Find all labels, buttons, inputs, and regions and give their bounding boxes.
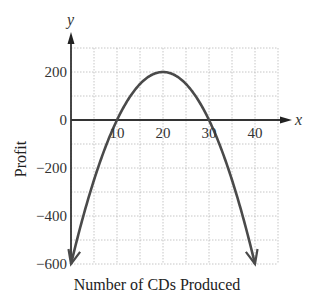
y-axis-label: Profit — [12, 129, 30, 189]
y-axis-letter: y — [65, 11, 75, 29]
profit-chart: 102030402000−200−400−600 x y — [0, 0, 314, 295]
y-tick-label: 0 — [60, 112, 68, 128]
x-tick-label: 20 — [156, 125, 171, 141]
x-axis-letter: x — [294, 111, 302, 128]
y-tick-label: 200 — [45, 64, 68, 80]
y-tick-label: −400 — [36, 208, 67, 224]
x-axis-label: Number of CDs Produced — [0, 276, 314, 294]
x-tick-label: 10 — [110, 125, 125, 141]
x-axis-arrow-icon — [280, 117, 292, 124]
y-tick-label: −200 — [36, 160, 67, 176]
y-tick-label: −600 — [36, 256, 67, 272]
y-axis-arrow-icon — [68, 32, 75, 44]
x-tick-label: 30 — [202, 125, 217, 141]
axes — [68, 32, 293, 264]
x-tick-label: 40 — [248, 125, 263, 141]
